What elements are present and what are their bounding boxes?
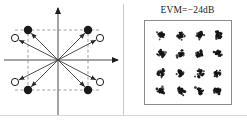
constellation-point xyxy=(162,88,165,91)
constellation-point xyxy=(199,31,201,33)
constellation-scatter-canvas xyxy=(145,21,231,104)
constellation-point xyxy=(200,51,203,54)
constellation-point xyxy=(160,72,162,74)
constellation-point xyxy=(199,35,201,37)
constellation-clusters xyxy=(156,30,223,96)
figure-root: EVM=−24dB xyxy=(0,0,247,122)
constellation-point xyxy=(181,74,183,76)
constellation-point xyxy=(215,51,217,53)
constellation-point xyxy=(157,73,159,75)
constellation-cluster-r0-c0 xyxy=(156,31,165,40)
measured-top-right xyxy=(96,34,103,41)
constellation-point xyxy=(180,91,183,94)
constellation-point xyxy=(203,34,205,36)
constellation-point xyxy=(198,39,200,41)
constellation-point xyxy=(200,70,203,73)
constellation-cluster-r0-c3 xyxy=(215,30,223,40)
constellation-point xyxy=(179,33,181,35)
vector-to-measured-top-left xyxy=(19,40,58,60)
evm-label: EVM=−24dB xyxy=(128,4,247,16)
constellation-point xyxy=(159,32,161,34)
constellation-point xyxy=(219,89,222,92)
constellation-cluster-r3-c1 xyxy=(177,86,186,96)
constellation-point xyxy=(219,69,221,71)
constellation-point xyxy=(200,53,202,55)
constellation-point xyxy=(218,93,221,96)
constellation-point xyxy=(176,56,178,58)
constellation-point xyxy=(163,54,165,56)
constellation-cluster-r3-c0 xyxy=(156,85,166,94)
constellation-point xyxy=(196,54,199,57)
constellation-point xyxy=(163,51,165,53)
constellation-point xyxy=(220,33,222,35)
constellation-cluster-r2-c3 xyxy=(213,69,221,77)
constellation-point xyxy=(159,39,161,41)
ideal-bottom-right xyxy=(84,86,92,94)
ideal-top-right xyxy=(84,26,92,34)
measured-bottom-right xyxy=(96,78,103,85)
constellation-point xyxy=(177,90,179,92)
constellation-cluster-r0-c2 xyxy=(196,31,206,41)
constellation-point xyxy=(216,34,219,37)
constellation-point xyxy=(198,68,200,70)
constellation-point xyxy=(202,73,204,75)
vector-to-ideal-top-left xyxy=(31,33,58,60)
constellation-point xyxy=(180,50,182,52)
constellation-point xyxy=(160,34,163,37)
constellation-point xyxy=(219,51,221,53)
vector-to-measured-bottom-left xyxy=(19,60,58,80)
constellation-point xyxy=(217,30,219,32)
constellation-point xyxy=(184,35,186,37)
constellation-point xyxy=(199,73,201,75)
vector-to-measured-bottom-right xyxy=(58,60,96,80)
constellation-point xyxy=(217,49,219,51)
constellation-cluster-r2-c2 xyxy=(194,68,205,78)
vector-error-diagram-canvas xyxy=(0,0,124,122)
ideal-top-left xyxy=(24,26,32,34)
constellation-cluster-r1-c1 xyxy=(176,49,185,58)
constellation-point xyxy=(181,88,184,91)
constellation-point xyxy=(217,36,219,38)
panel-divider xyxy=(123,4,124,116)
constellation-plot-box xyxy=(144,20,232,105)
constellation-point xyxy=(179,36,181,38)
constellation-point xyxy=(197,73,199,75)
constellation-point xyxy=(165,51,167,53)
constellation-cluster-r0-c1 xyxy=(176,32,186,41)
constellation-point xyxy=(216,89,218,91)
constellation-point xyxy=(181,32,183,34)
constellation-point xyxy=(213,91,216,94)
constellation-cluster-r3-c2 xyxy=(194,86,204,95)
measured-top-left xyxy=(11,34,18,41)
measured-constellation-panel: EVM=−24dB xyxy=(128,0,247,122)
vector-to-ideal-top-right xyxy=(58,33,85,60)
constellation-point xyxy=(177,34,180,37)
constellation-point xyxy=(179,55,181,57)
constellation-point xyxy=(218,54,221,57)
vector-to-measured-top-right xyxy=(58,40,96,60)
constellation-point xyxy=(203,70,205,72)
measured-bottom-left xyxy=(11,78,18,85)
constellation-point xyxy=(176,73,178,75)
constellation-point xyxy=(179,53,181,55)
constellation-point xyxy=(198,76,201,79)
vector-error-diagram xyxy=(0,0,124,122)
constellation-cluster-r3-c3 xyxy=(213,87,221,95)
constellation-point xyxy=(162,70,165,73)
constellation-point xyxy=(178,87,180,89)
constellation-point xyxy=(162,36,164,38)
constellation-point xyxy=(160,50,163,53)
constellation-point xyxy=(156,87,159,90)
constellation-cluster-r1-c0 xyxy=(156,49,167,59)
constellation-point xyxy=(184,90,187,93)
ideal-bottom-left xyxy=(24,86,32,94)
constellation-point xyxy=(159,91,161,93)
vector-to-ideal-bottom-right xyxy=(58,60,85,87)
constellation-point xyxy=(198,89,200,91)
constellation-point xyxy=(199,93,202,96)
constellation-point xyxy=(194,76,196,78)
constellation-point xyxy=(219,74,221,76)
constellation-cluster-r2-c0 xyxy=(156,68,165,78)
constellation-point xyxy=(200,90,202,92)
constellation-point xyxy=(216,73,218,75)
